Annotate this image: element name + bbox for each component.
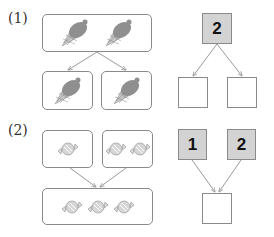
problem-2-top-left-picture-box bbox=[42, 130, 93, 168]
candy-icon bbox=[112, 199, 136, 215]
ice-cream-cone-icon bbox=[102, 18, 136, 48]
problem-1-total-number-box: 2 bbox=[202, 13, 232, 44]
problem-2-addend-box-left: 1 bbox=[178, 129, 207, 160]
problem-1-bottom-left-picture-box bbox=[42, 71, 93, 110]
candy-icon bbox=[128, 141, 152, 157]
candy-icon bbox=[56, 141, 80, 157]
problem-1-answer-box-left[interactable] bbox=[178, 77, 208, 108]
candy-icon bbox=[60, 199, 84, 215]
ice-cream-cone-icon bbox=[51, 76, 85, 106]
problem-2-top-right-picture-box bbox=[102, 130, 153, 168]
candy-icon bbox=[86, 199, 110, 215]
ice-cream-cone-icon bbox=[58, 18, 92, 48]
problem-2-bottom-picture-box bbox=[42, 188, 153, 225]
candy-icon bbox=[104, 141, 128, 157]
ice-cream-cone-icon bbox=[110, 76, 144, 106]
problem-2-answer-box[interactable] bbox=[202, 193, 232, 224]
problem-2-label: (2) bbox=[8, 122, 28, 138]
problem-2-addend-box-right: 2 bbox=[227, 129, 256, 160]
problem-1-answer-box-right[interactable] bbox=[227, 77, 257, 108]
problem-1-top-picture-box bbox=[42, 14, 152, 52]
problem-1-bottom-right-picture-box bbox=[101, 71, 152, 110]
problem-1-label: (1) bbox=[8, 10, 28, 26]
